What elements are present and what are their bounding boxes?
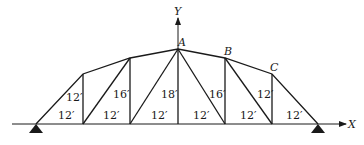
panel-width-6: 12′ xyxy=(286,109,303,122)
height-label-1: 12′ xyxy=(66,91,83,104)
truss-diagram: X Y A B C 12′ 12′ 12′ 12′ 12′ 12′ 12′ 16… xyxy=(0,0,364,145)
panel-width-4: 12′ xyxy=(193,109,210,122)
panel-width-1: 12′ xyxy=(58,109,75,122)
right-support-icon xyxy=(311,124,325,133)
height-label-2: 16′ xyxy=(113,88,130,101)
node-label-b: B xyxy=(223,45,232,58)
panel-width-5: 12′ xyxy=(240,109,257,122)
node-label-a: A xyxy=(177,36,186,49)
panel-width-3: 12′ xyxy=(151,109,168,122)
node-label-c: C xyxy=(270,61,279,74)
panel-width-2: 12′ xyxy=(103,109,120,122)
left-support-icon xyxy=(29,124,43,133)
y-axis-label: Y xyxy=(174,5,183,18)
x-axis-label: X xyxy=(347,118,357,131)
height-label-4: 16′ xyxy=(209,88,226,101)
height-label-5: 12′ xyxy=(257,88,274,101)
height-label-3: 18′ xyxy=(161,88,178,101)
